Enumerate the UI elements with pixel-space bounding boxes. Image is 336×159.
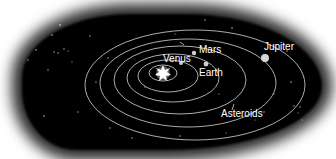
earth-planet bbox=[204, 62, 209, 67]
mars-planet bbox=[192, 51, 196, 55]
label-asteroids: Asteroids bbox=[221, 108, 263, 119]
asteroid-marker-2 bbox=[180, 42, 184, 45]
orbits-and-planets: Venus Mars Earth Jupiter Asteroids bbox=[0, 0, 336, 159]
label-jupiter: Jupiter bbox=[264, 41, 295, 52]
label-venus: Venus bbox=[163, 53, 191, 64]
jupiter-planet bbox=[261, 54, 269, 62]
label-earth: Earth bbox=[199, 67, 223, 78]
label-mars: Mars bbox=[199, 44, 221, 55]
sun-icon bbox=[155, 65, 171, 81]
solar-system-diagram: Venus Mars Earth Jupiter Asteroids bbox=[0, 0, 336, 159]
